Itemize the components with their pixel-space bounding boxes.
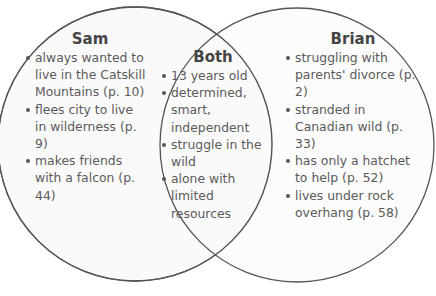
list-item: has only a hatchet to help (p. 52): [285, 152, 421, 186]
list-item: lives under rock overhang (p. 58): [285, 187, 421, 221]
right-list: struggling with parents' divorce (p. 2) …: [285, 49, 421, 221]
list-item: always wanted to live in the Catskill Mo…: [25, 49, 147, 101]
list-item: stranded in Canadian wild (p. 33): [285, 101, 421, 153]
list-item: makes friends with a falcon (p. 44): [25, 152, 147, 204]
list-item: flees city to live in wilderness (p. 9): [25, 101, 147, 153]
right-region-brian: Brian struggling with parents' divorce (…: [285, 30, 421, 221]
left-list: always wanted to live in the Catskill Mo…: [25, 49, 147, 204]
overlap-region-both: Both 13 years old determined, smart, ind…: [161, 48, 265, 222]
right-title: Brian: [285, 30, 421, 48]
list-item: alone with limited resources: [161, 170, 265, 222]
list-item: struggling with parents' divorce (p. 2): [285, 49, 421, 101]
left-region-sam: Sam always wanted to live in the Catskil…: [25, 30, 147, 204]
overlap-title: Both: [161, 48, 265, 66]
list-item: struggle in the wild: [161, 136, 265, 170]
list-item: 13 years old: [161, 67, 265, 84]
left-title: Sam: [25, 30, 147, 48]
list-item: determined, smart, independent: [161, 84, 265, 136]
overlap-list: 13 years old determined, smart, independ…: [161, 67, 265, 222]
